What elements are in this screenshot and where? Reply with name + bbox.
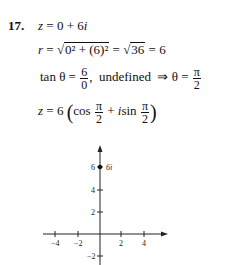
y-axis-arrow-icon bbox=[98, 145, 103, 152]
point-label: 6i bbox=[106, 163, 112, 172]
x-tick-label: 2 bbox=[119, 239, 123, 248]
y-tick-label: 6 bbox=[91, 163, 95, 172]
data-point-6i bbox=[98, 165, 102, 169]
complex-plane-plot: −4 −2 2 4 6 4 2 −2 6i bbox=[0, 0, 229, 265]
y-tick-label: −2 bbox=[87, 252, 96, 261]
x-axis-arrow-icon bbox=[161, 232, 168, 237]
x-tick-label: 4 bbox=[142, 239, 146, 248]
y-tick-label: 4 bbox=[91, 186, 95, 195]
x-tick-label: −2 bbox=[74, 239, 83, 248]
y-tick-label: 2 bbox=[91, 208, 95, 217]
x-tick-label: −4 bbox=[51, 239, 60, 248]
